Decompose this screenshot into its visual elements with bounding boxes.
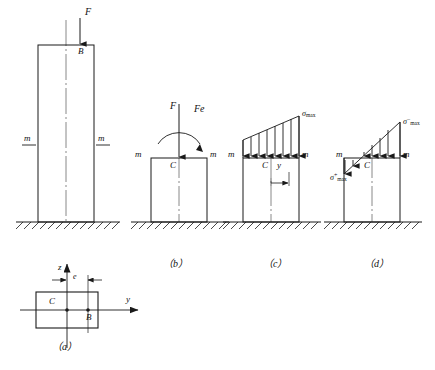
sigma-sub-d-compression: max <box>410 120 419 126</box>
sigma-sub-d-tension: max <box>337 176 346 182</box>
section-label-c-left: m <box>228 150 235 159</box>
caption-d: （d） <box>364 259 389 269</box>
section-label-main-left: m <box>24 134 31 143</box>
axis-z-label: z <box>58 263 62 272</box>
sigma-sub-c: max <box>306 112 315 118</box>
sigma-tension-label-d: σ+max <box>330 172 347 183</box>
centroid-label-d: C <box>364 161 370 170</box>
sigma-max-label-c: σmax <box>302 110 315 119</box>
force-label-main: F <box>85 7 91 17</box>
caption-b: （b） <box>163 259 188 269</box>
figure-linework <box>0 0 435 370</box>
caption-c: （c） <box>263 259 287 269</box>
caption-a: （a） <box>52 342 77 352</box>
centroid-label-c: C <box>262 161 268 170</box>
section-label-d-left: m <box>336 150 343 159</box>
distance-label-c: y <box>277 161 281 170</box>
force-label-b: F <box>170 101 176 111</box>
section-label-d-right: m <box>403 150 410 159</box>
section-label-b-right: m <box>210 150 217 159</box>
section-label-b-left: m <box>135 150 142 159</box>
load-point-label-a: B <box>86 313 92 322</box>
section-label-c-right: m <box>302 150 309 159</box>
centroid-label-b: C <box>170 161 176 170</box>
cross-section-group <box>20 264 138 348</box>
axis-y-label: y <box>126 295 130 304</box>
eccentricity-label: e <box>73 273 77 281</box>
centroid-label-a: C <box>49 297 55 306</box>
section-label-main-right: m <box>98 134 105 143</box>
engineering-figure: F B m m z y e C B （a） F Fe m m C （b） σma… <box>0 0 435 370</box>
load-point-label-main: B <box>78 47 84 56</box>
column-elevation-group <box>16 18 120 229</box>
moment-label-b: Fe <box>194 104 205 114</box>
panel-b-group <box>131 104 229 229</box>
sigma-compression-label-d: σ−max <box>403 116 420 127</box>
panel-c-group <box>223 116 321 229</box>
